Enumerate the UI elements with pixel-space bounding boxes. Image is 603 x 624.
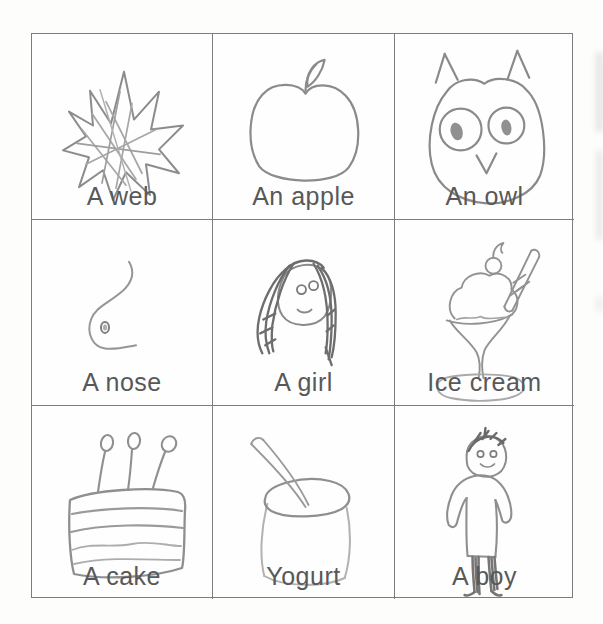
cake-drawing [32, 406, 212, 599]
boy-drawing [395, 406, 574, 599]
yogurt-drawing [213, 406, 394, 599]
grid-cell-cake: A cake [32, 406, 213, 599]
ice-cream-drawing [395, 220, 574, 405]
scanned-page: A web An apple [0, 0, 603, 624]
web-drawing [32, 34, 212, 219]
grid-cell-apple: An apple [213, 34, 395, 220]
grid-cell-boy: A boy [395, 406, 574, 599]
girl-drawing [213, 220, 394, 405]
grid-cell-yogurt: Yogurt [213, 406, 395, 599]
grid-cell-nose: A nose [32, 220, 213, 406]
scan-smudge [597, 150, 602, 240]
scan-smudge [597, 296, 602, 312]
grid-cell-ice-cream: Ice cream [395, 220, 574, 406]
apple-drawing [213, 34, 394, 219]
owl-drawing [395, 34, 574, 219]
grid-cell-girl: A girl [213, 220, 395, 406]
scan-smudge [596, 52, 603, 132]
grid-cell-owl: An owl [395, 34, 574, 220]
nose-drawing [32, 220, 212, 405]
picture-grid: A web An apple [31, 33, 573, 598]
grid-cell-web: A web [32, 34, 213, 220]
